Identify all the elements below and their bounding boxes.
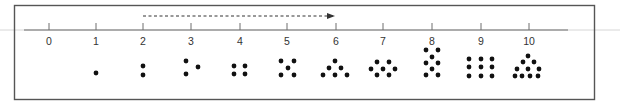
dot [515, 67, 520, 72]
dot-pattern-7 [369, 60, 398, 78]
tick-label-10: 10 [523, 35, 535, 47]
dot [333, 73, 338, 78]
number-line-diagram: 012345678910 [0, 0, 620, 103]
dot-pattern-2 [141, 64, 146, 78]
dot [430, 55, 435, 60]
dot [232, 72, 237, 77]
tick-label-7: 7 [380, 35, 386, 47]
dot-pattern-6 [321, 59, 350, 78]
dot [333, 59, 338, 64]
dot [513, 74, 518, 79]
dot [387, 73, 392, 78]
dot [424, 61, 429, 66]
dot [536, 74, 541, 79]
dot-pattern-8 [424, 48, 441, 78]
dot [339, 66, 344, 71]
dot [424, 73, 429, 78]
dot [243, 72, 248, 77]
tick-labels: 012345678910 [46, 35, 535, 47]
dot [467, 65, 472, 70]
tick-label-5: 5 [284, 35, 290, 47]
dot [94, 71, 99, 76]
dot [279, 73, 284, 78]
dot-patterns [94, 48, 542, 79]
dot [521, 60, 526, 65]
dot [184, 72, 189, 77]
tick-label-4: 4 [237, 35, 243, 47]
dot [467, 74, 472, 79]
dot-pattern-4 [232, 64, 248, 77]
dot [479, 57, 484, 62]
diagram-frame [15, 6, 595, 100]
dot [279, 59, 284, 64]
dot [327, 66, 332, 71]
dot [490, 57, 495, 62]
dot [345, 73, 350, 78]
dot-pattern-9 [467, 57, 495, 79]
dot-pattern-1 [94, 71, 99, 76]
tick-label-8: 8 [429, 35, 435, 47]
dot [184, 59, 189, 64]
dot [467, 57, 472, 62]
dot [286, 66, 291, 71]
tick-label-3: 3 [188, 35, 194, 47]
tick-label-2: 2 [140, 35, 146, 47]
dot [141, 73, 146, 78]
dot [369, 67, 374, 72]
dot [479, 74, 484, 79]
dot [243, 64, 248, 69]
dot [387, 60, 392, 65]
dot [381, 67, 386, 72]
dot [526, 54, 531, 59]
tick-label-9: 9 [478, 35, 484, 47]
dot [393, 67, 398, 72]
dot [430, 67, 435, 72]
dot [424, 48, 429, 53]
dot [526, 67, 531, 72]
dot [141, 64, 146, 69]
dot [375, 73, 380, 78]
dot [490, 65, 495, 70]
dot [532, 60, 537, 65]
dot-pattern-10 [513, 54, 542, 79]
dot [232, 64, 237, 69]
dot [436, 73, 441, 78]
tick-label-6: 6 [333, 35, 339, 47]
dot [479, 65, 484, 70]
dot-pattern-3 [184, 59, 201, 77]
tick-label-1: 1 [93, 35, 99, 47]
dot [196, 65, 201, 70]
dot [537, 67, 542, 72]
dot [436, 48, 441, 53]
tick-label-0: 0 [46, 35, 52, 47]
dot [321, 73, 326, 78]
dot-pattern-5 [279, 59, 297, 78]
dot [436, 61, 441, 66]
dot [375, 60, 380, 65]
dot [520, 74, 525, 79]
dot [528, 74, 533, 79]
dot [292, 59, 297, 64]
dot [490, 74, 495, 79]
dot [292, 73, 297, 78]
tick-marks [49, 23, 529, 30]
